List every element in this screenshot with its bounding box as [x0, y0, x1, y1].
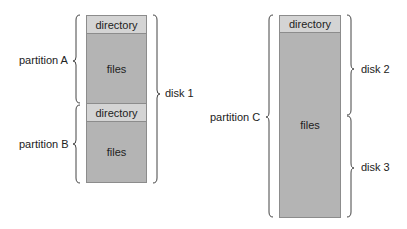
partition-b-brace [73, 105, 80, 183]
partition-a-brace [73, 15, 80, 103]
brace-lines [0, 0, 407, 229]
disk3-brace [347, 116, 354, 217]
disk1-label: disk 1 [165, 87, 194, 99]
partition-a-label: partition A [19, 54, 68, 66]
partition-b-label: partition B [19, 138, 69, 150]
partition-c-label: partition C [210, 111, 260, 123]
disk2-label: disk 2 [361, 63, 390, 75]
disk1-brace [153, 15, 160, 183]
disk3-label: disk 3 [361, 161, 390, 173]
disk2-brace [347, 15, 354, 115]
partition-c-brace [266, 15, 273, 217]
